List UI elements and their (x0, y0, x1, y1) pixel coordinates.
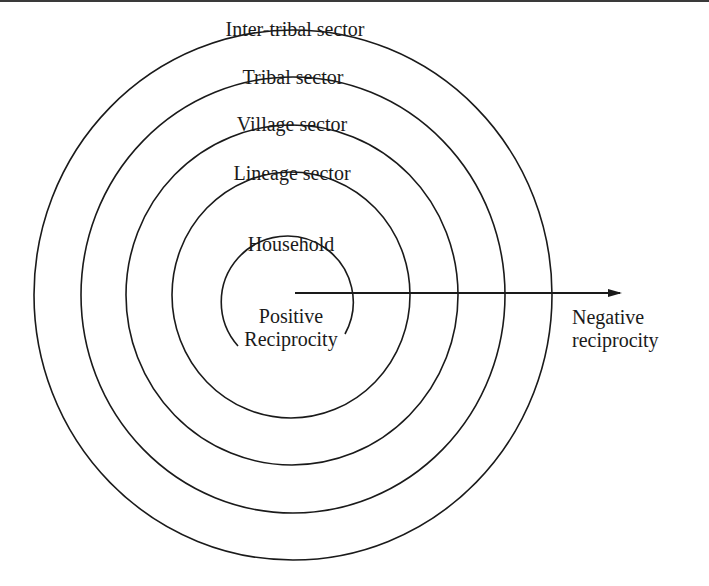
negative-reciprocity-label: reciprocity (572, 329, 659, 351)
tribal-sector-label: Tribal sector (243, 66, 344, 88)
negative-label: Negative (572, 306, 644, 328)
inter-tribal-sector-label: Inter-tribal sector (226, 18, 365, 40)
household-label: Household (248, 233, 335, 255)
lineage-sector-label: Lineage sector (233, 162, 350, 184)
reciprocity-label: Reciprocity (244, 328, 337, 350)
positive-label: Positive (259, 305, 323, 327)
village-sector-label: Village sector (237, 113, 347, 135)
reciprocity-sectors-diagram (0, 0, 709, 586)
tribal-sector-ring (81, 77, 505, 513)
lineage-sector-ring (172, 172, 410, 418)
inter-tribal-sector-ring (34, 30, 552, 560)
